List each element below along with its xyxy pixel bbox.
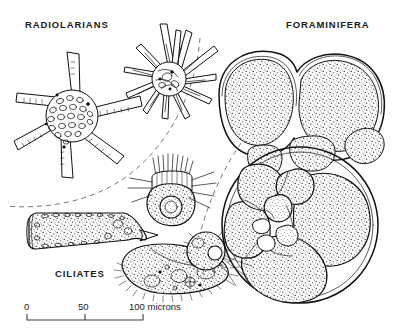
label-ciliates: CILIATES [55,268,105,279]
radiolarian-star-test [46,90,98,142]
radiolarian-spiny-test [152,62,186,96]
scale-tick-label-100: 100 microns [129,301,181,312]
label-radiolarians: RADIOLARIANS [25,19,109,30]
microplankton-plate: RADIOLARIANS FORAMINIFERA CILIATES [0,0,397,335]
scale-tick-label-50: 50 [78,301,89,312]
label-foraminifera: FORAMINIFERA [286,19,370,30]
scale-tick-label-0: 0 [24,301,29,312]
